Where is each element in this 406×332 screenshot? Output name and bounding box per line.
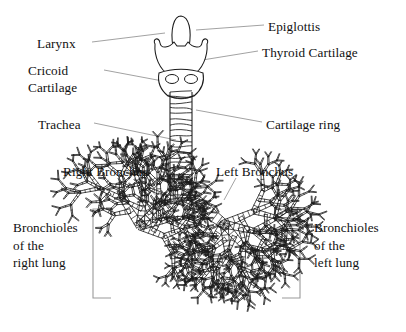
label-bronchioles-right-line1: Bronchioles <box>13 220 78 235</box>
bronchiole-branch-d1-wall <box>157 130 163 136</box>
bronchiole-branch-d2-ring <box>160 168 161 169</box>
bronchiole-branch-d1-wall <box>270 289 277 293</box>
bronchiole-branch-d3-ring <box>212 252 214 253</box>
bronchiole-branch-d3-ring <box>173 154 174 156</box>
bronchiole-branch-d5-ring <box>259 195 263 197</box>
bronchiole-branch-d6-ring <box>248 211 250 216</box>
bronchiole-branch-d2-wall <box>177 251 184 254</box>
bronchiole-branch-d2-ring <box>103 150 104 151</box>
bronchiole-branch-d1-ring <box>287 200 288 201</box>
bronchiole-branch-d2-ring <box>221 277 222 278</box>
bronchiole-branch-d2-ring <box>199 281 200 282</box>
bronchiole-branch-d5-ring <box>269 220 271 223</box>
bronchiole-branch-d4-ring <box>241 237 245 238</box>
label-bronchioles-left-line2: of the <box>314 238 345 253</box>
label-left-bronchus: Left Bronchus <box>216 163 293 181</box>
bronchiole-branch-d1-ring <box>250 300 251 301</box>
bronchiole-branch-d2-ring <box>118 189 119 191</box>
bronchiole-branch-d3-ring <box>91 183 92 185</box>
respiratory-tract-diagram: Epiglottis Thyroid Cartilage Larynx Cric… <box>0 0 406 332</box>
tracheal-cartilage-ring <box>170 107 191 109</box>
bronchiole-branch-d2-wall <box>178 166 185 167</box>
bronchiole-branch-d1-ring <box>101 158 102 159</box>
label-cricoid-line2: Cartilage <box>28 80 77 95</box>
bronchiole-branch-d1-ring <box>265 297 266 298</box>
bronchiole-branch-d2-ring <box>205 229 206 230</box>
bronchiole-branch-d2-ring <box>199 169 200 170</box>
bronchiole-branch-d1-ring <box>264 287 265 288</box>
bronchiole-branch-d1-wall <box>158 131 164 137</box>
bronchiole-branch-d4-ring <box>232 235 236 237</box>
bronchiole-branch-d2-wall <box>231 268 232 275</box>
bronchiole-branch-d1-wall <box>262 259 263 264</box>
bronchiole-branch-d1-ring <box>298 186 299 187</box>
bronchiole-branch-d2-ring <box>184 190 185 191</box>
bronchiole-branch-d1-ring <box>65 190 66 191</box>
bronchiole-branch-d1-ring <box>283 269 284 270</box>
cricoid-cartilage-shape <box>159 69 204 98</box>
bronchiole-branch-d2-ring <box>211 183 212 184</box>
bronchiole-branch-d2-ring <box>124 199 125 201</box>
bronchiole-branch-d1-ring <box>291 201 292 202</box>
bronchiole-branch-d3-ring <box>229 282 230 284</box>
bronchiole-branch-d4-ring <box>161 172 164 173</box>
bronchiole-branch-d3-ring <box>154 190 155 192</box>
bronchiole-branch-d2-ring <box>109 149 110 150</box>
epiglottis-leader <box>196 25 264 30</box>
bronchiole-branch-d3-ring <box>169 271 170 272</box>
label-bronchioles-left-lung: Bronchiolesof theleft lung <box>314 219 379 272</box>
bronchiole-branch-d2-ring <box>86 181 88 182</box>
bronchiole-branch-d4-ring <box>130 209 131 214</box>
bronchiole-branch-d3-ring <box>186 171 187 172</box>
bronchiole-branch-d1-wall <box>196 186 200 187</box>
bronchiole-branch-d1-wall <box>312 196 313 203</box>
bronchiole-branch-d1-ring <box>298 268 299 269</box>
bronchiole-branch-d1-ring <box>181 159 182 160</box>
tracheal-cartilage-ring <box>170 124 191 126</box>
bronchiole-branch-d2-ring <box>211 189 212 190</box>
label-cricoid-cartilage: CricoidCartilage <box>28 62 77 96</box>
bronchiole-branch-d1-ring <box>157 136 158 137</box>
bronchiole-branch-d1-ring <box>256 154 257 155</box>
bronchiole-branch-d1-ring <box>91 152 92 153</box>
cartilage-ring-leader <box>196 110 262 122</box>
bronchiole-branch-d2-ring <box>271 253 272 254</box>
bronchiole-branch-d3-ring <box>260 244 262 245</box>
bronchiole-branch-d1-wall <box>190 149 197 154</box>
bronchiole-branch-d2-wall <box>169 265 176 266</box>
bronchiole-branch-d1-ring <box>236 297 237 298</box>
label-cricoid-line1: Cricoid <box>28 63 68 78</box>
bronchiole-branch-d2-ring <box>258 272 259 273</box>
bronchiole-branch-d3-ring <box>280 227 281 229</box>
bronchiole-branch-d3-ring <box>110 218 112 219</box>
bronchiole-branch-d4-ring <box>137 205 139 209</box>
bronchiole-branch-d3-ring <box>279 236 280 238</box>
bronchiole-branch-d3-ring <box>73 200 74 201</box>
bronchiole-branch-d1-wall <box>91 147 98 151</box>
label-trachea: Trachea <box>38 116 81 134</box>
cricoid-foramen-1 <box>166 75 179 84</box>
bronchiole-branch-d1-ring <box>300 227 301 228</box>
bronchiole-branch-d3-ring <box>146 157 147 159</box>
label-epiglottis: Epiglottis <box>268 18 320 36</box>
bronchiole-branch-d6-ring <box>223 240 229 241</box>
bronchiole-branch-d2-ring <box>108 223 109 225</box>
bronchiole-branch-d1-ring <box>179 235 180 236</box>
bronchiole-branch-d2-ring <box>304 193 305 194</box>
bronchiole-branch-d4-ring <box>90 189 91 192</box>
bronchiole-branch-d1-ring <box>294 276 295 277</box>
bronchiole-branch-d1-ring <box>192 228 193 229</box>
bronchiole-branch-d1-wall <box>126 144 132 145</box>
bronchiole-branch-d2-ring <box>207 293 208 294</box>
bronchiole-branch-d4-ring <box>95 188 96 191</box>
bronchiole-branch-d1-wall <box>202 182 210 183</box>
left-main-bronchus-ring <box>211 213 218 222</box>
bronchiole-branch-d3-ring <box>274 192 276 193</box>
bronchiole-branch-d3-ring <box>204 226 205 228</box>
bronchiole-branch-d1-wall <box>184 285 185 291</box>
bronchiole-branch-d1-wall <box>189 148 196 153</box>
bronchiole-branch-d1-ring <box>156 196 157 197</box>
bronchiole-branch-d2-ring <box>113 201 114 203</box>
bronchiole-branch-d1-ring <box>304 248 305 249</box>
bronchiole-branch-d2-ring <box>309 207 310 208</box>
